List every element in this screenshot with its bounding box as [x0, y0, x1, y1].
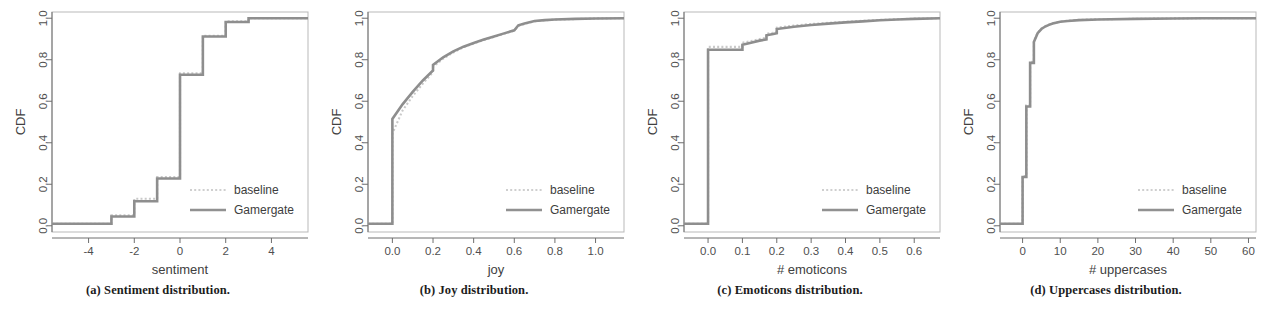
y-tick-label: 1.0 — [985, 10, 997, 26]
y-tick-label: 0.4 — [669, 134, 681, 151]
x-tick-label: 0.4 — [466, 245, 483, 257]
panel-caption-b: (b) Joy distribution. — [316, 283, 632, 298]
x-tick-label: 40 — [1167, 245, 1180, 257]
y-tick-label: 0.6 — [985, 93, 997, 109]
y-tick-label: 0.0 — [353, 218, 365, 234]
y-tick-label: 0.6 — [37, 93, 49, 109]
legend-label-gamergate: Gamergate — [1182, 203, 1242, 217]
plot-frame — [684, 12, 940, 232]
figure-panel-row: 0.00.20.40.60.81.0CDF-4-2024sentimentbas… — [0, 0, 1264, 318]
x-tick-label: 2 — [223, 245, 229, 257]
y-tick-label: 0.6 — [353, 93, 365, 109]
plot-area-d: 0.00.20.40.60.81.0CDF0102030405060# uppe… — [948, 0, 1264, 278]
x-axis-title: joy — [487, 262, 505, 277]
x-tick-label: 0.3 — [803, 245, 819, 257]
x-tick-label: 4 — [268, 245, 275, 257]
x-tick-label: 0.6 — [506, 245, 522, 257]
x-tick-label: 0 — [177, 245, 183, 257]
x-tick-label: 0.8 — [547, 245, 563, 257]
x-tick-label: -2 — [129, 245, 139, 257]
figure-panel-c: 0.00.20.40.60.81.0CDF0.00.10.20.30.40.50… — [632, 0, 948, 318]
legend-label-baseline: baseline — [1182, 183, 1227, 197]
y-axis-title: CDF — [13, 109, 28, 136]
x-axis-title: # uppercases — [1089, 262, 1168, 277]
legend-label-baseline: baseline — [866, 183, 911, 197]
y-axis-title: CDF — [329, 109, 344, 136]
legend-label-baseline: baseline — [550, 183, 595, 197]
x-tick-label: 1.0 — [588, 245, 604, 257]
x-tick-label: 0.0 — [384, 245, 400, 257]
x-tick-label: 0.5 — [872, 245, 888, 257]
y-tick-label: 0.4 — [985, 134, 997, 151]
figure-panel-d: 0.00.20.40.60.81.0CDF0102030405060# uppe… — [948, 0, 1264, 318]
x-tick-label: 60 — [1242, 245, 1255, 257]
x-tick-label: 0.2 — [425, 245, 441, 257]
x-tick-label: 30 — [1129, 245, 1142, 257]
x-tick-label: 0.0 — [700, 245, 716, 257]
y-tick-label: 0.2 — [37, 176, 49, 192]
y-tick-label: 0.0 — [37, 218, 49, 234]
legend-label-baseline: baseline — [234, 183, 279, 197]
plot-area-c: 0.00.20.40.60.81.0CDF0.00.10.20.30.40.50… — [632, 0, 948, 278]
x-tick-label: 10 — [1054, 245, 1067, 257]
y-axis-title: CDF — [961, 109, 976, 136]
y-tick-label: 0.2 — [985, 176, 997, 192]
y-tick-label: 0.8 — [353, 52, 365, 68]
legend-label-gamergate: Gamergate — [866, 203, 926, 217]
plot-frame — [1000, 12, 1256, 232]
x-tick-label: 0 — [1019, 245, 1025, 257]
y-tick-label: 0.8 — [985, 52, 997, 68]
legend-label-gamergate: Gamergate — [234, 203, 294, 217]
figure-panel-b: 0.00.20.40.60.81.0CDF0.00.20.40.60.81.0j… — [316, 0, 632, 318]
plot-frame — [368, 12, 624, 232]
x-axis-title: # emoticons — [777, 262, 848, 277]
y-axis-title: CDF — [645, 109, 660, 136]
legend-label-gamergate: Gamergate — [550, 203, 610, 217]
y-tick-label: 0.0 — [669, 218, 681, 234]
y-tick-label: 1.0 — [669, 10, 681, 26]
panel-caption-d: (d) Uppercases distribution. — [948, 283, 1264, 298]
x-tick-label: 0.2 — [769, 245, 785, 257]
x-axis-title: sentiment — [152, 262, 209, 277]
y-tick-label: 0.8 — [669, 52, 681, 68]
y-tick-label: 0.0 — [985, 218, 997, 234]
y-tick-label: 0.2 — [669, 176, 681, 192]
panel-caption-a: (a) Sentiment distribution. — [0, 283, 316, 298]
panel-caption-c: (c) Emoticons distribution. — [632, 283, 948, 298]
y-tick-label: 0.4 — [353, 134, 365, 151]
y-tick-label: 0.6 — [669, 93, 681, 109]
y-tick-label: 0.4 — [37, 134, 49, 151]
x-tick-label: 20 — [1091, 245, 1104, 257]
plot-area-b: 0.00.20.40.60.81.0CDF0.00.20.40.60.81.0j… — [316, 0, 632, 278]
y-tick-label: 1.0 — [37, 10, 49, 26]
x-tick-label: 50 — [1204, 245, 1217, 257]
x-tick-label: 0.1 — [734, 245, 750, 257]
x-tick-label: -4 — [83, 245, 94, 257]
y-tick-label: 1.0 — [353, 10, 365, 26]
plot-area-a: 0.00.20.40.60.81.0CDF-4-2024sentimentbas… — [0, 0, 316, 278]
y-tick-label: 0.2 — [353, 176, 365, 192]
y-tick-label: 0.8 — [37, 52, 49, 68]
x-tick-label: 0.6 — [906, 245, 922, 257]
figure-panel-a: 0.00.20.40.60.81.0CDF-4-2024sentimentbas… — [0, 0, 316, 318]
x-tick-label: 0.4 — [838, 245, 855, 257]
